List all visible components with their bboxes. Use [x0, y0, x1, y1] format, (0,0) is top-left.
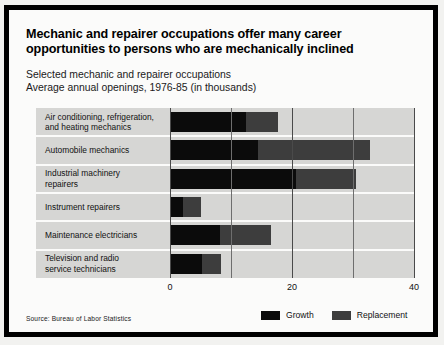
bar-segment-growth [170, 140, 258, 160]
legend-label-growth: Growth [286, 310, 314, 320]
chart-row: Maintenance electricians [36, 221, 415, 249]
chart-figure: Mechanic and repairer occupations offer … [0, 0, 444, 345]
figure-frame: Mechanic and repairer occupations offer … [4, 5, 438, 337]
category-label: Automobile mechanics [45, 136, 167, 164]
gridline-30 [353, 108, 354, 278]
chart-row: Industrial machinery repairers [36, 165, 415, 193]
subtitle-line-1: Selected mechanic and repairer occupatio… [26, 68, 419, 81]
bar-segment-growth [170, 225, 220, 245]
chart-subtitle: Selected mechanic and repairer occupatio… [26, 68, 419, 95]
subtitle-line-2: Average annual openings, 1976-85 (in tho… [26, 81, 419, 94]
stacked-bar [170, 254, 221, 274]
x-tick-label-20: 20 [287, 282, 297, 292]
gridline-0 [170, 108, 171, 278]
plot-area: Air conditioning, refrigeration, and hea… [36, 108, 415, 278]
chart-row: Automobile mechanics [36, 136, 415, 164]
row-separator [36, 192, 415, 194]
bar-segment-replacement [202, 254, 222, 274]
x-tick-label-40: 40 [409, 282, 419, 292]
bar-segment-replacement [183, 197, 201, 217]
chart-title: Mechanic and repairer occupations offer … [26, 27, 419, 56]
bar-segment-replacement [220, 225, 271, 245]
category-label: Industrial machinery repairers [45, 165, 167, 193]
chart-row: Instrument repairers [36, 193, 415, 221]
category-label: Maintenance electricians [45, 221, 167, 249]
chart-row: Television and radio service technicians [36, 250, 415, 278]
category-label: Television and radio service technicians [45, 250, 167, 278]
source-note: Source: Bureau of Labor Statistics [26, 315, 131, 322]
bar-segment-replacement [246, 112, 278, 132]
chart-row: Air conditioning, refrigeration, and hea… [36, 108, 415, 136]
legend-swatch-replacement [332, 311, 351, 320]
figure-card: Mechanic and repairer occupations offer … [9, 10, 433, 332]
gridline-20 [292, 108, 293, 278]
stacked-bar [170, 225, 271, 245]
bar-segment-growth [170, 112, 246, 132]
row-separator [36, 220, 415, 222]
gridline-40 [414, 108, 415, 278]
stacked-bar [170, 169, 356, 189]
category-label: Air conditioning, refrigeration, and hea… [45, 108, 167, 136]
gridline-10 [231, 108, 232, 278]
stacked-bar [170, 112, 278, 132]
bar-segment-growth [170, 254, 202, 274]
legend-swatch-growth [261, 311, 280, 320]
bar-segment-growth [170, 197, 183, 217]
stacked-bar [170, 140, 370, 160]
bar-segment-growth [170, 169, 296, 189]
row-separator [36, 164, 415, 166]
bar-segment-replacement [296, 169, 356, 189]
row-separator [36, 249, 415, 251]
legend-label-replacement: Replacement [357, 310, 408, 320]
row-separator [36, 135, 415, 137]
x-tick-label-0: 0 [167, 282, 172, 292]
chart-legend: Growth Replacement [261, 310, 407, 320]
category-label: Instrument repairers [45, 193, 167, 221]
stacked-bar [170, 197, 201, 217]
